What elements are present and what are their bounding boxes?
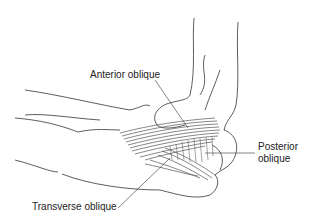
elbow-ligament-diagram: Anterior oblique Posterior oblique Trans… (0, 0, 311, 219)
label-transverse-oblique: Transverse oblique (32, 201, 117, 212)
label-anterior-oblique: Anterior oblique (90, 69, 160, 80)
label-posterior-oblique-line1: Posterior (258, 141, 298, 152)
label-posterior-oblique-line2: oblique (258, 153, 290, 164)
elbow-illustration (0, 0, 311, 219)
